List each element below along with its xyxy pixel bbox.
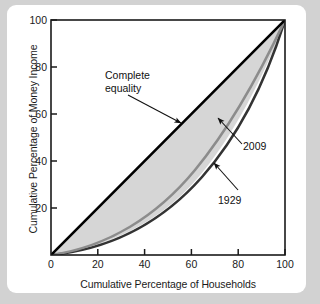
complete-equality-leader-line [128, 95, 181, 123]
annotation-2009: 2009 [243, 140, 266, 153]
annotation-1929-leader-line [214, 163, 238, 190]
x-tick-label-20: 20 [85, 258, 111, 270]
annotation-1929: 1929 [218, 194, 241, 207]
y-axis-title: Cumulative Percentage of Money Income [27, 21, 39, 257]
x-tick-label-100: 100 [272, 258, 298, 270]
x-axis-ticks [98, 249, 285, 255]
x-tick-label-60: 60 [178, 258, 204, 270]
annotation-complete-equality: Complete equality [105, 69, 150, 94]
complete-equality-line [51, 20, 285, 255]
plot-content [51, 20, 285, 255]
x-axis-title: Cumulative Percentage of Households [51, 278, 285, 290]
x-tick-label-0: 0 [38, 258, 64, 270]
y-axis-ticks [51, 20, 57, 208]
x-tick-label-40: 40 [132, 258, 158, 270]
x-tick-label-80: 80 [225, 258, 251, 270]
